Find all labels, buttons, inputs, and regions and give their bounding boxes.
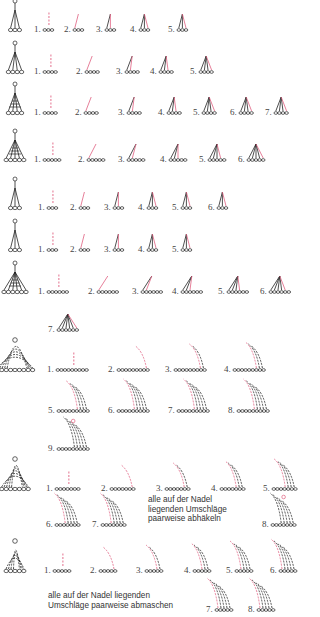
step-label: 8. xyxy=(248,605,255,614)
note-abmaschen: alle auf der Nadel liegenden Umschläge p… xyxy=(48,591,173,610)
step-label: 7. xyxy=(206,605,213,614)
note-abhaekeln: alle auf der Nadel liegenden Umschläge p… xyxy=(148,495,227,524)
